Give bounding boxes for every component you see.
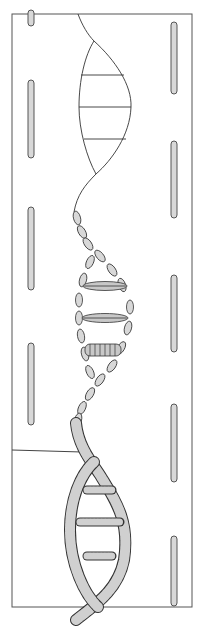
left-rods <box>28 10 34 425</box>
chromatin-diagram <box>0 0 207 641</box>
right-rods <box>171 22 177 606</box>
boundary-line <box>12 450 82 452</box>
supercoiled-fiber <box>70 423 125 620</box>
dna-double-helix <box>74 14 131 212</box>
